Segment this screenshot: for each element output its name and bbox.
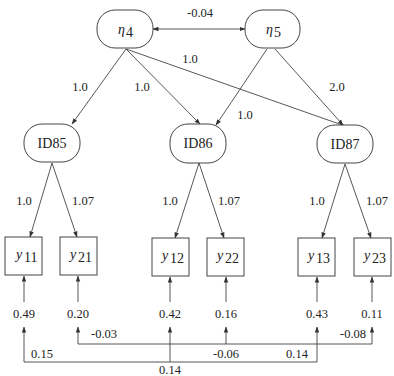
node-y12-sub: 12 <box>170 251 184 266</box>
label-eta5-id87: 2.0 <box>329 80 345 94</box>
label-eta5-id86: 1.0 <box>237 108 253 122</box>
label-eta4-id86: 1.0 <box>134 80 150 94</box>
edge-id85-y11 <box>30 163 52 237</box>
node-y11-sub: 11 <box>24 250 37 265</box>
label-id86-y12: 1.0 <box>162 194 178 208</box>
node-y12: y 12 <box>152 238 189 276</box>
node-y13: y 13 <box>298 238 335 276</box>
error-covariance-lines <box>24 327 372 362</box>
label-err-y11: 0.49 <box>13 307 35 321</box>
node-y22: y 22 <box>207 238 244 276</box>
node-y23-label: y <box>362 248 371 263</box>
label-err-y23: 0.11 <box>361 307 382 321</box>
node-eta4-sub: 4 <box>126 25 133 40</box>
edge-id87-y13 <box>322 164 345 238</box>
node-y11-label: y <box>14 247 23 262</box>
label-cov-y11-y13: 0.14 <box>159 363 182 376</box>
node-y13-label: y <box>306 248 315 263</box>
label-cov-y21-y22: -0.03 <box>91 327 117 341</box>
node-y22-sub: 22 <box>225 251 239 266</box>
node-y21: y 21 <box>60 237 97 275</box>
label-id87-y23: 1.07 <box>366 194 388 208</box>
node-id87-label: ID87 <box>331 137 360 152</box>
node-eta4-label: η <box>118 22 125 37</box>
node-y23: y 23 <box>354 238 391 276</box>
node-id86-label: ID86 <box>184 136 213 151</box>
error-arrows <box>24 276 372 302</box>
node-id85: ID85 <box>24 124 80 162</box>
node-y23-sub: 23 <box>372 251 386 266</box>
label-id85-y11: 1.0 <box>16 194 32 208</box>
node-id87: ID87 <box>317 125 373 163</box>
label-id85-y21: 1.07 <box>72 194 94 208</box>
edge-labels: -0.04 1.0 1.0 1.0 1.0 2.0 1.0 1.07 1.0 1… <box>13 6 388 376</box>
label-cov-y22-y23: -0.06 <box>213 347 239 361</box>
label-cov-y21-y23: -0.08 <box>340 327 366 341</box>
node-eta5-label: η <box>266 22 273 37</box>
node-eta5-sub: 5 <box>274 25 281 40</box>
label-cov-y11-y12: 0.15 <box>31 347 53 361</box>
label-err-y21: 0.20 <box>67 307 89 321</box>
path-diagram: η 4 η 5 ID85 ID86 ID87 y 11 y 21 y 12 y … <box>0 0 394 376</box>
node-eta4: η 4 <box>97 10 153 48</box>
label-cov-y12-y13: 0.14 <box>286 347 309 361</box>
node-y11: y 11 <box>5 237 42 275</box>
label-err-y13: 0.43 <box>306 307 328 321</box>
node-y22-label: y <box>215 248 224 263</box>
node-y21-label: y <box>68 247 77 262</box>
label-id86-y22: 1.07 <box>218 194 240 208</box>
label-id87-y13: 1.0 <box>309 194 325 208</box>
label-eta4-id87: 1.0 <box>182 52 198 66</box>
node-y21-sub: 21 <box>78 250 92 265</box>
label-err-y22: 0.16 <box>215 307 237 321</box>
label-err-y12: 0.42 <box>159 307 181 321</box>
label-eta4-id85: 1.0 <box>72 80 88 94</box>
node-id86: ID86 <box>170 124 226 163</box>
edge-eta4-id87 <box>126 49 345 126</box>
label-cov-eta4-eta5: -0.04 <box>187 6 214 20</box>
node-y12-label: y <box>160 248 169 263</box>
edge-id86-y12 <box>175 163 199 238</box>
node-eta5: η 5 <box>245 10 300 48</box>
node-id85-label: ID85 <box>38 136 67 151</box>
node-y13-sub: 13 <box>316 251 330 266</box>
